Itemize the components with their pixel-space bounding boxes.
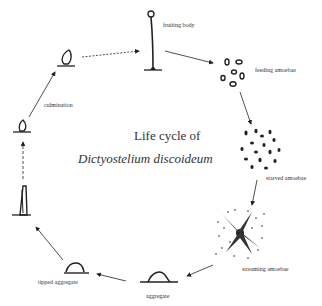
label-tipped-aggregate: tipped aggregate	[38, 279, 78, 285]
diagram-title-line2: Dictyostelium discoideum	[78, 151, 213, 167]
feeding-amoebae-icon	[221, 59, 244, 86]
label-aggregate: aggregate	[146, 293, 169, 299]
label-feeding-amoebae: feeding amoebae	[255, 67, 296, 73]
label-fruiting-body: fruiting body	[163, 22, 195, 28]
label-culmination: culmination	[44, 102, 73, 108]
streaming-amoebae-icon	[215, 209, 265, 259]
starved-amoebae-icon	[240, 129, 280, 170]
early-culmination-icon	[13, 120, 31, 132]
slug-icon	[12, 186, 31, 215]
tipped-aggregate-icon	[64, 263, 89, 273]
life-cycle-diagram: fruiting body feeding amoebae starved am…	[0, 0, 322, 306]
culmination-icon	[57, 50, 75, 66]
aggregate-icon	[140, 272, 178, 282]
diagram-title-line1: Life cycle of	[134, 128, 200, 144]
label-starved-amoebae: starved amoebae	[266, 175, 306, 181]
label-streaming-amoebae: streaming amoebae	[242, 266, 288, 272]
fruiting-body-icon	[144, 11, 162, 70]
